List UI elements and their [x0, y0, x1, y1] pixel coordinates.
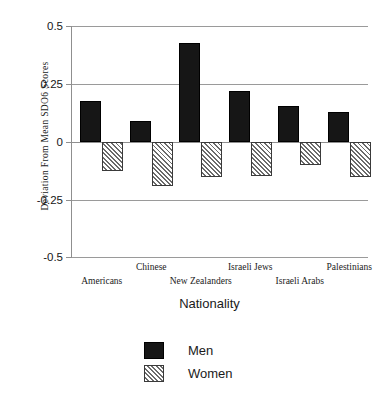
- tick-neg0.25: [66, 200, 72, 201]
- x-tick-label-israeli-jews: Israeli Jews: [228, 262, 273, 272]
- bar-women-israeli-arabs: [300, 142, 321, 165]
- legend-label-women: Women: [188, 366, 233, 381]
- tick-neg0.5: [66, 257, 72, 258]
- bar-men-americans: [80, 101, 101, 142]
- x-tick-label-new-zealanders: New Zealanders: [170, 276, 232, 286]
- gridline-0.25: [71, 84, 368, 85]
- x-axis-title: Nationality: [0, 296, 383, 311]
- legend-item-women: Women: [144, 362, 233, 385]
- chart-figure: Deviation From Mean SDO6 Scores 0.5 0.25…: [0, 0, 383, 401]
- bar-men-chinese: [130, 121, 151, 142]
- y-tick-label-neg0.25: -0.25: [37, 194, 63, 206]
- gridline-neg0.25: [71, 200, 368, 201]
- bar-men-new-zealanders: [179, 43, 200, 142]
- bar-men-israeli-jews: [229, 91, 250, 142]
- gridline-neg0.5: [71, 257, 368, 258]
- bar-women-americans: [102, 142, 123, 171]
- bar-women-palestinians: [350, 142, 371, 177]
- plot-area: 0.5 0.25 0 -0.25 -0.5: [71, 26, 368, 258]
- bar-men-israeli-arabs: [278, 106, 299, 142]
- legend-swatch-men-icon: [144, 342, 164, 359]
- y-tick-label-neg0.5: -0.5: [43, 251, 63, 263]
- tick-0.5: [66, 26, 72, 27]
- x-tick-label-americans: Americans: [81, 276, 122, 286]
- y-tick-label-0.5: 0.5: [47, 20, 63, 32]
- legend-label-men: Men: [188, 343, 213, 358]
- legend-item-men: Men: [144, 339, 233, 362]
- x-tick-label-palestinians: Palestinians: [327, 262, 372, 272]
- gridline-0.5: [71, 26, 368, 27]
- x-tick-label-israeli-arabs: Israeli Arabs: [276, 276, 324, 286]
- legend-swatch-women-icon: [144, 365, 164, 382]
- tick-0: [66, 142, 72, 143]
- bar-women-new-zealanders: [201, 142, 222, 177]
- tick-0.25: [66, 84, 72, 85]
- x-axis-title-text: Nationality: [179, 296, 240, 311]
- y-tick-label-0: 0: [57, 136, 63, 148]
- y-tick-label-0.25: 0.25: [41, 78, 63, 90]
- bar-women-israeli-jews: [251, 142, 272, 176]
- chart-legend: Men Women: [144, 339, 233, 385]
- bar-men-palestinians: [328, 112, 349, 142]
- y-axis-title: Deviation From Mean SDO6 Scores: [40, 11, 50, 261]
- x-tick-label-chinese: Chinese: [136, 262, 167, 272]
- bar-women-chinese: [152, 142, 173, 186]
